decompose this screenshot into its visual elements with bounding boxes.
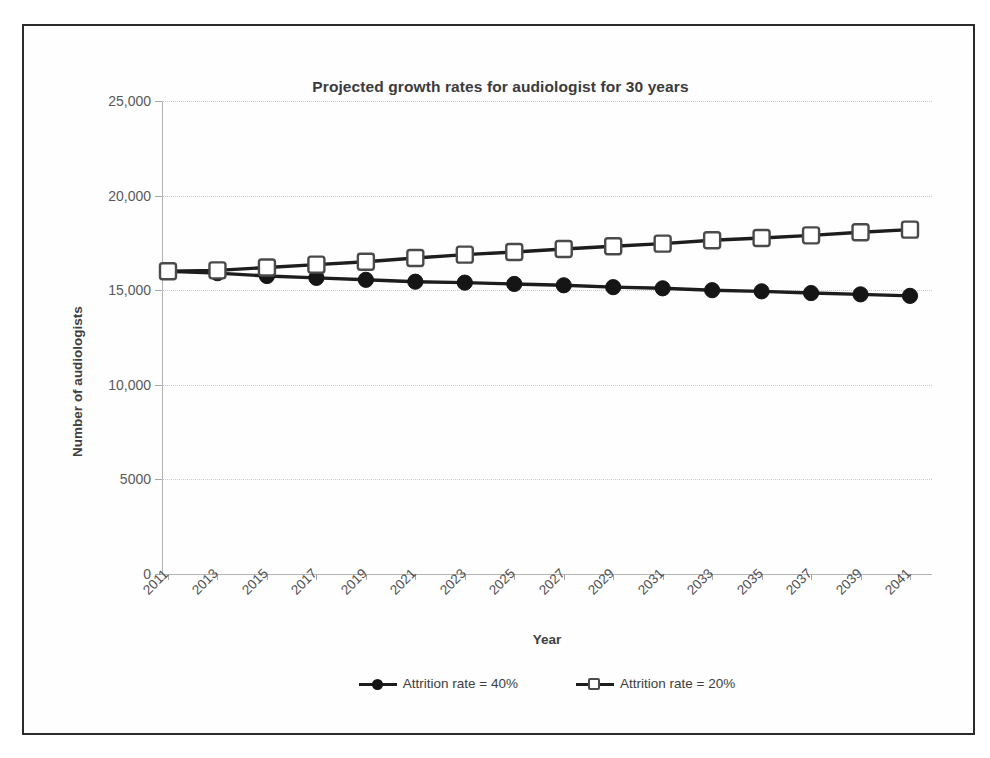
data-point-open-square xyxy=(655,236,671,252)
data-point-filled-circle xyxy=(655,281,670,296)
series-line xyxy=(168,271,910,296)
legend-label: Attrition rate = 40% xyxy=(403,676,518,691)
y-tick-label: 20,000 xyxy=(108,188,151,204)
chart-legend: Attrition rate = 40% Attrition rate = 20… xyxy=(162,676,932,691)
data-point-filled-circle xyxy=(754,284,769,299)
legend-marker-filled-circle-icon xyxy=(359,677,397,691)
legend-item-attrition-20[interactable]: Attrition rate = 20% xyxy=(576,676,735,691)
chart-title: Projected growth rates for audiologist f… xyxy=(24,78,977,96)
y-axis-title-text: Number of audiologists xyxy=(70,306,85,457)
data-point-open-square xyxy=(407,250,423,266)
y-tick-label: 5000 xyxy=(120,471,151,487)
legend-marker-open-square-icon xyxy=(576,677,614,691)
y-tick-label: 15,000 xyxy=(108,282,151,298)
data-point-open-square xyxy=(358,254,374,270)
figure-frame: Projected growth rates for audiologist f… xyxy=(22,24,975,735)
plot-area: 25,00020,00015,00010,00050000 2011201320… xyxy=(162,101,932,574)
legend-item-attrition-40[interactable]: Attrition rate = 40% xyxy=(359,676,518,691)
y-tick xyxy=(155,196,162,197)
data-point-filled-circle xyxy=(705,283,720,298)
data-point-open-square xyxy=(506,244,522,260)
legend-label: Attrition rate = 20% xyxy=(620,676,735,691)
y-tick xyxy=(155,290,162,291)
data-point-filled-circle xyxy=(358,272,373,287)
y-tick xyxy=(155,385,162,386)
data-point-open-square xyxy=(754,230,770,246)
data-point-open-square xyxy=(457,247,473,263)
data-point-open-square xyxy=(209,262,225,278)
data-point-open-square xyxy=(605,238,621,254)
data-point-open-square xyxy=(160,263,176,279)
data-point-filled-circle xyxy=(507,276,522,291)
data-point-filled-circle xyxy=(853,287,868,302)
data-point-open-square xyxy=(853,224,869,240)
y-tick xyxy=(155,101,162,102)
data-point-filled-circle xyxy=(457,275,472,290)
data-point-filled-circle xyxy=(556,278,571,293)
y-tick xyxy=(155,479,162,480)
data-point-open-square xyxy=(803,227,819,243)
data-point-filled-circle xyxy=(803,285,818,300)
data-point-open-square xyxy=(556,241,572,257)
data-point-filled-circle xyxy=(902,288,917,303)
data-point-open-square xyxy=(704,232,720,248)
series-layer xyxy=(162,101,932,574)
y-tick-label: 10,000 xyxy=(108,377,151,393)
data-point-open-square xyxy=(902,222,918,238)
data-point-filled-circle xyxy=(408,274,423,289)
y-tick-label: 25,000 xyxy=(108,93,151,109)
data-point-filled-circle xyxy=(606,280,621,295)
data-point-open-square xyxy=(259,259,275,275)
chart-page: Projected growth rates for audiologist f… xyxy=(0,0,990,758)
x-axis-title: Year xyxy=(162,632,932,647)
y-axis-title: Number of audiologists xyxy=(64,26,90,737)
data-point-open-square xyxy=(308,257,324,273)
series-line xyxy=(168,230,910,272)
